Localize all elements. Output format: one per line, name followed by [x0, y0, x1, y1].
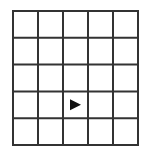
grid-cell-r1-c4 [88, 11, 113, 38]
grid-cell-r3-c1 [13, 65, 38, 92]
grid-cell-r4-c1 [13, 91, 38, 118]
grid-cell-r2-c2 [38, 38, 63, 65]
grid-cell-r4-c5 [113, 91, 138, 118]
grid-cell-r1-c2 [38, 11, 63, 38]
grid-cell-r2-c1 [13, 38, 38, 65]
grid-cell-r2-c3 [63, 38, 88, 65]
grid-cell-r1-c5 [113, 11, 138, 38]
grid-cell-r2-c4 [88, 38, 113, 65]
grid-cell-r1-c1 [13, 11, 38, 38]
grid-cell-r2-c5 [113, 38, 138, 65]
grid-cell-r4-c4 [88, 91, 113, 118]
grid-cell-r3-c5 [113, 65, 138, 92]
grid-cell-r4-c2 [38, 91, 63, 118]
grid-svg [12, 10, 139, 146]
grid-cell-r3-c2 [38, 65, 63, 92]
grid-cell-r3-c4 [88, 65, 113, 92]
grid-board [12, 10, 139, 146]
grid-cell-r5-c2 [38, 118, 63, 145]
grid-cell-r3-c3 [63, 65, 88, 92]
grid-cell-r5-c1 [13, 118, 38, 145]
grid-cell-r5-c4 [88, 118, 113, 145]
grid-cell-r5-c5 [113, 118, 138, 145]
grid-cell-r1-c3 [63, 11, 88, 38]
grid-cell-r5-c3 [63, 118, 88, 145]
